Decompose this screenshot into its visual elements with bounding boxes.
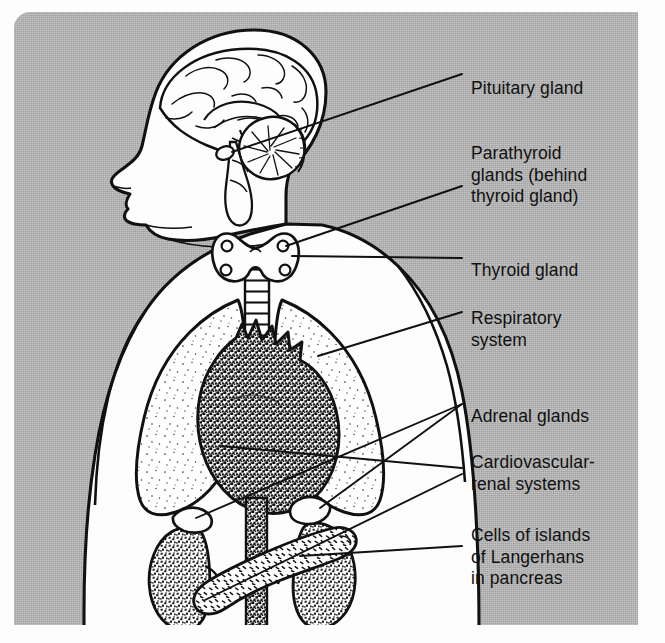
parathyroid-glands-label-line-2: glands (behind [471, 165, 587, 187]
cardiovascular-renal-label-line-2: renal systems [471, 474, 595, 496]
thyroid-gland-label-line-1: Thyroid gland [471, 260, 578, 282]
parathyroid-glands-label-line-1: Parathyroid [471, 143, 587, 165]
leader-parathyroid [286, 186, 462, 246]
respiratory-system-label: Respiratorysystem [471, 308, 562, 351]
islands-of-langerhans-label-line-1: Cells of islands [471, 525, 590, 547]
pituitary-gland-label: Pituitary gland [471, 78, 583, 100]
islands-of-langerhans-label: Cells of islandsof Langerhansin pancreas [471, 525, 590, 590]
islands-of-langerhans-label-line-3: in pancreas [471, 568, 590, 590]
islands-of-langerhans-label-line-2: of Langerhans [471, 547, 590, 569]
respiratory-system-label-line-1: Respiratory [471, 308, 562, 330]
parathyroid-glands-label-line-3: thyroid gland) [471, 186, 587, 208]
pituitary-gland-label-line-1: Pituitary gland [471, 78, 583, 100]
respiratory-system-label-line-2: system [471, 330, 562, 352]
adrenal-glands-label: Adrenal glands [471, 406, 589, 428]
adrenal-glands-label-line-1: Adrenal glands [471, 406, 589, 428]
figure-root: Pituitary glandParathyroidglands (behind… [0, 0, 665, 643]
thyroid-gland-label: Thyroid gland [471, 260, 578, 282]
parathyroid-glands-label: Parathyroidglands (behindthyroid gland) [471, 143, 587, 208]
cardiovascular-renal-label-line-1: Cardiovascular- [471, 452, 595, 474]
cardiovascular-renal-label: Cardiovascular-renal systems [471, 452, 595, 495]
